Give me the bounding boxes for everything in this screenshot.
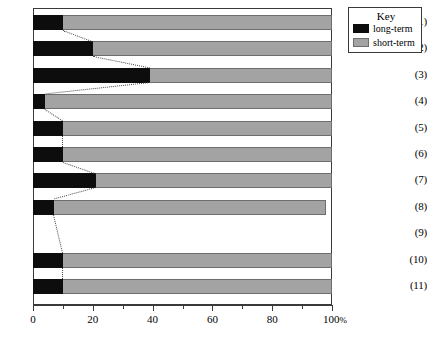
bar-segment-long-term — [33, 68, 150, 83]
legend-swatch-long-term — [353, 24, 369, 33]
x-tick-major — [153, 305, 154, 311]
category-label-6: (6) — [396, 148, 427, 159]
x-tick-major — [33, 305, 34, 311]
bar-segment-long-term — [33, 200, 54, 215]
category-label-4: (4) — [396, 95, 427, 106]
x-tick-label-value: 40 — [147, 313, 158, 325]
legend-swatch-short-term — [353, 38, 369, 47]
bar-segment-long-term — [33, 41, 93, 56]
x-tick-label-60: 60 — [192, 313, 232, 325]
bar-segment-short-term — [96, 173, 332, 188]
legend-label: short-term — [373, 37, 415, 48]
bar-segment-short-term — [63, 121, 332, 136]
legend-box: Key long-termshort-term — [348, 7, 422, 53]
bar-segment-short-term — [63, 15, 332, 30]
bar-segment-long-term — [33, 15, 63, 30]
x-tick-label-value: 20 — [87, 313, 98, 325]
bar-segment-long-term — [33, 121, 63, 136]
connector-line — [62, 268, 63, 279]
x-tick-label-20: 20 — [73, 313, 113, 325]
category-label-7: (7) — [396, 174, 427, 185]
bar-segment-short-term — [93, 41, 332, 56]
bar-segment-short-term — [45, 94, 332, 109]
bar-segment-long-term — [33, 94, 45, 109]
legend-label: long-term — [373, 23, 412, 34]
bar-segment-long-term — [33, 147, 63, 162]
category-label-8: (8) — [396, 201, 427, 212]
x-tick-minor — [183, 305, 184, 309]
category-label-11: (11) — [396, 280, 427, 291]
x-tick-minor — [123, 305, 124, 309]
x-tick-major — [332, 305, 333, 311]
x-tick-label-value: 100 — [323, 313, 340, 325]
x-tick-minor — [302, 305, 303, 309]
x-tick-major — [93, 305, 94, 311]
x-tick-minor — [242, 305, 243, 309]
legend-title: Key — [349, 10, 423, 22]
x-axis-unit-suffix: % — [340, 315, 348, 325]
x-tick-label-40: 40 — [133, 313, 173, 325]
bar-segment-short-term — [54, 200, 326, 215]
x-tick-label-0: 0 — [13, 313, 53, 325]
bar-segment-short-term — [150, 68, 332, 83]
bar-segment-short-term — [63, 253, 332, 268]
bar-segment-long-term — [33, 279, 63, 294]
x-tick-label-value: 0 — [30, 313, 36, 325]
bar-segment-long-term — [33, 173, 96, 188]
bar-segment-short-term — [63, 279, 332, 294]
x-tick-label-value: 80 — [267, 313, 278, 325]
bar-segment-long-term — [33, 253, 63, 268]
bar-segment-short-term — [63, 147, 332, 162]
x-tick-label-100: 100% — [315, 313, 355, 326]
x-tick-label-80: 80 — [252, 313, 292, 325]
x-tick-minor — [63, 305, 64, 309]
category-label-9: (9) — [396, 227, 427, 238]
x-tick-major — [272, 305, 273, 311]
category-label-3: (3) — [396, 69, 427, 80]
chart-canvas: (1)(2)(3)(4)(5)(6)(7)(8)(9)(10)(11) 0204… — [0, 0, 427, 343]
category-label-5: (5) — [396, 122, 427, 133]
x-tick-major — [212, 305, 213, 311]
x-tick-label-value: 60 — [207, 313, 218, 325]
category-label-10: (10) — [396, 254, 427, 265]
connector-line — [62, 136, 63, 147]
